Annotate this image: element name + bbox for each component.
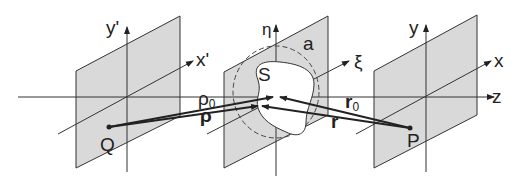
label-p: P — [407, 131, 420, 150]
label-s: S — [258, 65, 271, 84]
label-a: a — [303, 34, 314, 53]
label-y: y — [409, 18, 419, 37]
label-eta: η — [262, 21, 271, 38]
label-z: z — [492, 87, 502, 106]
label-x-prime: x' — [196, 50, 209, 69]
r0-subscript: 0 — [352, 100, 359, 114]
label-r0: r0 — [345, 92, 359, 113]
label-r: r — [331, 112, 338, 131]
label-xi: ξ — [354, 52, 363, 71]
diagram: y' x' Q η ξ S a y x P z ρ0 ρ r0 r — [0, 0, 519, 182]
diagram-canvas — [0, 0, 519, 182]
label-rho: ρ — [200, 106, 212, 125]
label-x: x — [494, 51, 504, 70]
label-y-prime: y' — [106, 18, 119, 37]
label-q: Q — [100, 135, 115, 154]
source-plane — [76, 16, 180, 168]
